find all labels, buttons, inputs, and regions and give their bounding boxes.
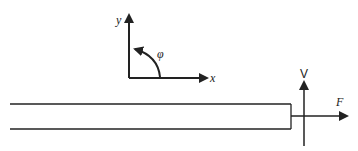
angle-label: φ [157,47,164,61]
shear-force-label: V [300,67,308,81]
axial-force-label: F [335,95,344,109]
beam [10,104,291,129]
coordinate-system: y x φ [115,13,216,85]
beam-diagram: y x φ V F [0,0,358,151]
end-forces: V F [291,67,347,146]
x-axis-label: x [209,71,216,85]
y-axis-label: y [115,13,122,27]
